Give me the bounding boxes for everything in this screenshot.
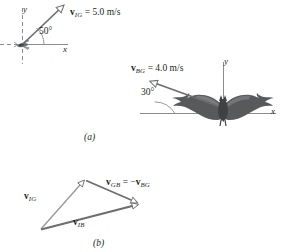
panel-a-x-axis-label: x [63, 45, 67, 54]
panel-b-vector-label-IB: vIB [73, 218, 85, 228]
panel-b-vector-label-IG: vIG [24, 192, 36, 202]
vector-magnitude-BG: = 4.0 m/s [145, 63, 183, 73]
vector-subscript-b-IB: IB [78, 221, 85, 228]
panel-a2-x-axis-label: x [271, 107, 275, 116]
figure-graphics [0, 0, 288, 252]
vector-subscript-BG: BG [136, 67, 146, 74]
physics-figure: y x 50° vIG = 5.0 m/s y x 30° vBG = 4.0 … [0, 0, 288, 252]
vector-subscript-b-IG: IG [29, 195, 37, 202]
panel-a2-vector-label: vBG = 4.0 m/s [131, 64, 183, 74]
panel-a-insect-axes [0, 8, 68, 64]
panel-a-vector-label: vIG = 5.0 m/s [70, 8, 120, 18]
vector-equals-negative: = − [120, 177, 135, 187]
vector-v-IG-arrow [24, 6, 64, 44]
panel-a2-angle-label: 30° [141, 88, 154, 98]
panel-b-vector-label-GB: vGB = −vBG [106, 178, 150, 188]
panel-a-caption: (a) [84, 133, 95, 143]
panel-a2-y-axis-label: y [224, 57, 228, 66]
vector-magnitude-IG: = 5.0 m/s [82, 7, 120, 17]
panel-b-caption: (b) [93, 239, 104, 249]
vector-subscript-b-BG: BG [140, 181, 150, 188]
vector-subscript-b-GB: GB [111, 181, 121, 188]
panel-a-y-axis-label: y [23, 5, 27, 14]
panel-a-angle-label: 50° [39, 27, 52, 37]
